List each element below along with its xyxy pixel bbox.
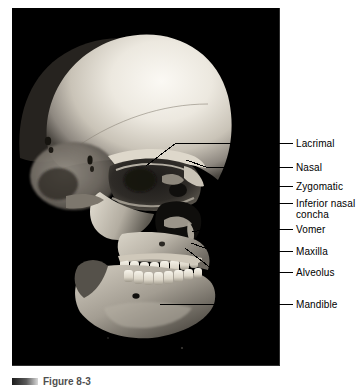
label-zygomatic-line1: Zygomatic [296, 181, 343, 192]
figure-caption: Figure 8-3 [12, 374, 292, 388]
label-lacrimal-line1: Lacrimal [296, 138, 335, 149]
label-inferior-nasal-concha-line1: Inferior nasal [296, 198, 355, 209]
label-maxilla-line1: Maxilla [296, 246, 328, 257]
label-vomer-line1: Vomer [296, 224, 325, 235]
photo-vignette [12, 8, 280, 366]
label-vomer[interactable]: Vomer [296, 224, 325, 235]
skull-photograph [12, 8, 280, 366]
skull-photo-canvas [12, 8, 280, 366]
caption-rule-bar [12, 378, 38, 385]
label-inferior-nasal-concha[interactable]: Inferior nasal concha [296, 198, 355, 220]
label-inferior-nasal-concha-line2: concha [296, 209, 355, 220]
label-alveolus[interactable]: Alveolus [296, 267, 335, 278]
label-mandible[interactable]: Mandible [296, 299, 337, 310]
label-nasal[interactable]: Nasal [296, 162, 322, 173]
label-lacrimal[interactable]: Lacrimal [296, 138, 335, 149]
label-maxilla[interactable]: Maxilla [296, 246, 328, 257]
label-nasal-line1: Nasal [296, 162, 322, 173]
anatomy-figure: Lacrimal Nasal Zygomatic Inferior nasal … [0, 0, 360, 388]
label-list: Lacrimal Nasal Zygomatic Inferior nasal … [296, 0, 360, 388]
figure-number: Figure 8-3 [43, 376, 91, 387]
label-mandible-line1: Mandible [296, 299, 337, 310]
label-alveolus-line1: Alveolus [296, 267, 335, 278]
label-zygomatic[interactable]: Zygomatic [296, 181, 343, 192]
